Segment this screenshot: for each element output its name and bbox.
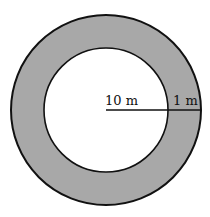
inner-radius-label: 10 m <box>105 94 138 107</box>
annulus-diagram <box>0 0 210 217</box>
ring-width-label: 1 m <box>173 94 198 107</box>
